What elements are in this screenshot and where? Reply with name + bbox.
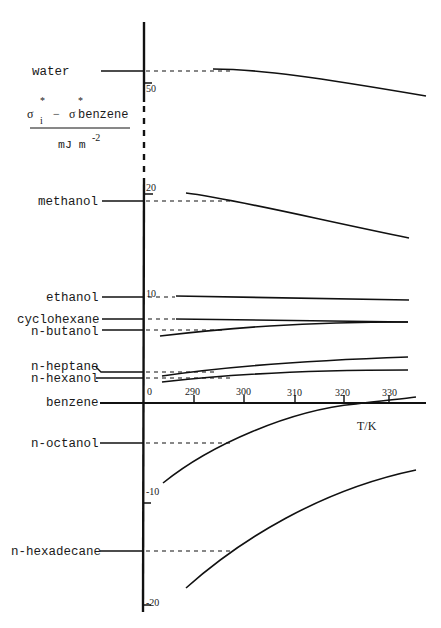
y-tick-20: 20 [146,182,156,193]
ylabel-unit-exp: -2 [92,132,100,143]
curve-methanol [186,193,409,238]
label-n-octanol: n-octanol [31,437,99,451]
dashed-extrapolations [146,71,233,551]
y-tick-minus-10: -10 [146,486,159,497]
curve-ethanol [176,296,409,300]
ylabel-sigma-i: σ [27,107,34,121]
surface-tension-chart: 50 20 10 0 -10 -20 290 300 310 320 330 T… [0,0,441,628]
curve-n-hexadecane [186,470,416,588]
ylabel-star-b: * [78,95,83,106]
curve-n-butanol [160,322,408,336]
y-tick-0: 0 [147,386,152,397]
label-n-hexanol: n-hexanol [31,372,99,386]
ylabel-minus: − [53,107,60,121]
label-methanol: methanol [38,195,98,209]
y-tick-minus-20: -20 [146,597,159,608]
y-tick-50: 50 [146,83,156,94]
label-water: water [32,65,70,79]
data-curves [160,69,426,588]
y-axis-label: σ * i − σ * benzene mJ m -2 [27,95,130,151]
ylabel-sigma-b: σ [69,107,76,121]
curve-n-octanol [163,397,416,483]
ylabel-benzene: benzene [78,108,128,122]
label-benzene: benzene [46,396,99,410]
x-tick-310: 310 [287,387,302,398]
x-tick-290: 290 [185,386,200,397]
label-ethanol: ethanol [46,291,99,305]
x-tick-300: 300 [236,386,251,397]
curve-water [213,69,426,96]
ylabel-sub-i: i [40,115,43,126]
y-axis [143,22,153,612]
label-n-butanol: n-butanol [31,325,99,339]
x-tick-330: 330 [382,387,397,398]
ylabel-unit: mJ m [58,138,86,151]
x-axis-label: T/K [357,419,377,433]
ylabel-star-i: * [40,95,45,106]
label-n-hexadecane: n-hexadecane [11,545,101,559]
x-tick-320: 320 [335,387,350,398]
